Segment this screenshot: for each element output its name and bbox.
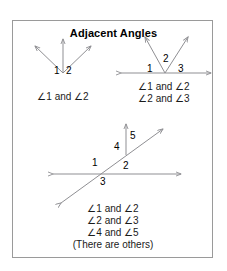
rays-group-figure-3 — [53, 124, 181, 203]
diagonal-line-figure-3 — [61, 129, 163, 203]
caption-figure-2-line-1: ∠1 and ∠2 — [117, 81, 211, 93]
angle-label-3-figure-3: 3 — [100, 176, 106, 187]
rays-group-figure-1 — [35, 39, 91, 73]
caption-figure-3-line-2: ∠2 and ∠3 — [53, 215, 173, 227]
angle-label-1-figure-3: 1 — [92, 157, 98, 168]
caption-figure-2-line-2: ∠2 and ∠3 — [117, 93, 211, 105]
caption-figure-3-line-4: (There are others) — [53, 239, 173, 251]
angle-label-2-figure-3: 2 — [123, 160, 129, 171]
angle-label-3-figure-2: 3 — [178, 63, 184, 74]
caption-figure-1-line-1: ∠1 and ∠2 — [25, 91, 101, 103]
angle-label-1-figure-1: 1 — [54, 65, 60, 76]
angle-label-1-figure-2: 1 — [147, 63, 153, 74]
angle-label-2-figure-2: 2 — [163, 53, 169, 64]
angle-label-4-figure-3: 4 — [114, 141, 120, 152]
caption-figure-3-line-3: ∠4 and ∠5 — [53, 227, 173, 239]
figure-page: Adjacent Angles — [0, 0, 227, 271]
adjacent-angles-panel: Adjacent Angles — [12, 20, 213, 258]
angle-label-5-figure-3: 5 — [130, 130, 136, 141]
angle-label-2-figure-1: 2 — [66, 65, 72, 76]
caption-figure-3-line-1: ∠1 and ∠2 — [53, 203, 173, 215]
